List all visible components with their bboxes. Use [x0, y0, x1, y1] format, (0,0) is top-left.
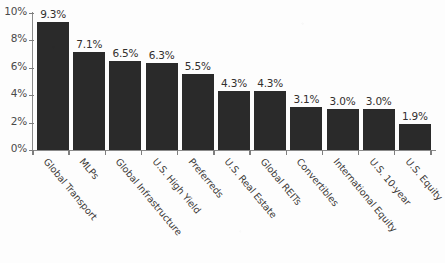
bar-value-label: 1.9% — [402, 110, 428, 122]
bar-group: 1.9% — [399, 124, 431, 150]
x-axis-category-label: MLPs — [78, 156, 102, 181]
bar-chart: 10%8%6%4%2%0% 9.3%Global Transport7.1%ML… — [0, 0, 445, 263]
bar-value-label: 9.3% — [40, 8, 66, 20]
bar-value-label: 5.5% — [185, 60, 211, 72]
x-axis-tick-mark — [249, 150, 250, 155]
x-axis-tick-mark — [68, 150, 69, 155]
bar-group: 5.5% — [182, 74, 214, 150]
bar — [399, 124, 431, 150]
x-axis-tick-mark — [394, 150, 395, 155]
bar-value-label: 6.5% — [112, 47, 138, 59]
bar-group: 4.3% — [254, 91, 286, 150]
bar-group: 3.1% — [290, 107, 322, 150]
bar — [109, 61, 141, 150]
bar — [363, 109, 395, 150]
x-axis-tick-mark — [105, 150, 106, 155]
bar-value-label: 4.3% — [257, 77, 283, 89]
bar — [182, 74, 214, 150]
bar — [290, 107, 322, 150]
bar-group: 9.3% — [37, 22, 69, 150]
bar-group: 3.0% — [363, 109, 395, 150]
x-axis-tick-mark — [177, 150, 178, 155]
bar-group: 4.3% — [218, 91, 250, 150]
bar-value-label: 4.3% — [221, 77, 247, 89]
x-axis-category-label: Global Infrastructure — [114, 156, 185, 238]
bar — [37, 22, 69, 150]
bar — [254, 91, 286, 150]
bar-group: 3.0% — [327, 109, 359, 150]
bar — [146, 63, 178, 150]
bar — [73, 52, 105, 150]
bar-value-label: 7.1% — [76, 38, 102, 50]
bar-group: 6.5% — [109, 61, 141, 150]
x-axis-tick-mark — [322, 150, 323, 155]
bar-group: 7.1% — [73, 52, 105, 150]
x-axis-tick-mark — [213, 150, 214, 155]
x-axis-tick-mark — [430, 150, 431, 155]
x-axis-tick-mark — [286, 150, 287, 155]
x-axis-tick-mark — [32, 150, 33, 155]
bars-layer: 9.3%Global Transport7.1%MLPs6.5%Global I… — [0, 0, 445, 263]
bar-value-label: 3.1% — [293, 93, 319, 105]
bar — [327, 109, 359, 150]
bar-group: 6.3% — [146, 63, 178, 150]
bar — [218, 91, 250, 150]
x-axis-tick-mark — [358, 150, 359, 155]
x-axis-category-label: Preferreds — [186, 156, 225, 200]
x-axis-tick-mark — [141, 150, 142, 155]
bar-value-label: 6.3% — [149, 49, 175, 61]
bar-value-label: 3.0% — [330, 95, 356, 107]
bar-value-label: 3.0% — [366, 95, 392, 107]
x-axis-category-label: International Equity — [331, 156, 399, 234]
